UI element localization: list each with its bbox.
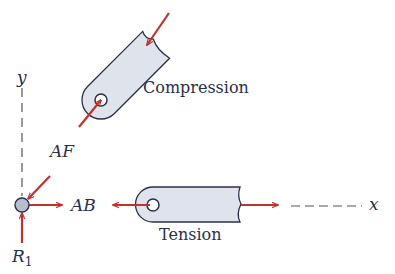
ab-label: AB: [71, 197, 96, 214]
joint-a: [15, 198, 29, 212]
tension-member: [136, 187, 242, 222]
y-axis-label: y: [17, 69, 27, 86]
x-axis-label: x: [369, 196, 379, 213]
free-body-diagram: y x AF AB R1 Compression Tension: [0, 0, 395, 274]
r1-main: R: [12, 246, 25, 266]
r1-label: R1: [12, 248, 32, 265]
af-label: AF: [50, 143, 74, 160]
r1-subscript: 1: [25, 255, 33, 269]
tension-label: Tension: [159, 227, 221, 243]
af-arrow: [28, 176, 50, 199]
compression-label: Compression: [143, 80, 249, 96]
compression-top-arrow: [147, 13, 169, 45]
